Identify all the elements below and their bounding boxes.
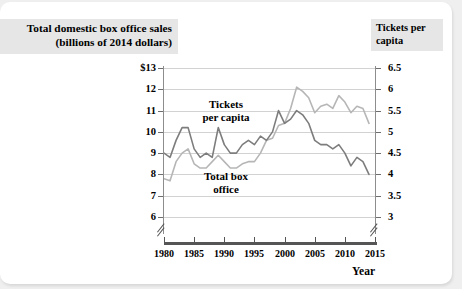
left-tick-label: $13 <box>116 63 156 74</box>
right-tick <box>376 111 381 112</box>
x-axis-label: Year <box>352 265 375 277</box>
right-tick-label: 6 <box>388 84 428 95</box>
right-tick <box>376 89 381 90</box>
left-tick <box>158 132 163 133</box>
plot-area: $13 12 11 10 9 8 7 6 6.5 6 5.5 5 4.5 4 3… <box>164 68 375 217</box>
x-tick <box>224 237 225 242</box>
x-tick <box>194 237 195 242</box>
x-axis-line <box>164 242 377 245</box>
chart-card: Total domestic box office sales (billion… <box>0 2 452 284</box>
left-tick-label: 11 <box>116 106 156 117</box>
x-tick <box>254 237 255 242</box>
left-tick-label: 12 <box>116 84 156 95</box>
x-tick <box>315 237 316 242</box>
left-tick-label: 6 <box>116 212 156 223</box>
right-tick-label: 3.5 <box>388 191 428 202</box>
left-axis-title: Total domestic box office sales (billion… <box>0 19 178 54</box>
right-tick <box>376 68 381 69</box>
left-axis-title-line1: Total domestic box office sales <box>27 22 172 34</box>
right-tick-label: 3 <box>388 212 428 223</box>
annotation-tickets-per-capita: Tickets per capita <box>186 98 266 124</box>
right-tick-label: 4.5 <box>388 148 428 159</box>
right-axis-line <box>375 66 376 234</box>
left-tick-label: 8 <box>116 169 156 180</box>
left-tick <box>158 111 163 112</box>
left-tick-label: 9 <box>116 148 156 159</box>
right-tick-label: 5.5 <box>388 106 428 117</box>
right-tick <box>376 153 381 154</box>
right-tick <box>376 132 381 133</box>
right-axis-title-line2: capita <box>376 35 403 46</box>
left-axis-title-line2: (billions of 2014 dollars) <box>56 36 172 48</box>
left-tick <box>158 196 163 197</box>
x-tick <box>285 237 286 242</box>
right-tick <box>376 174 381 175</box>
x-tick <box>345 237 346 242</box>
right-tick <box>376 196 381 197</box>
x-tick <box>375 237 376 242</box>
right-tick-label: 5 <box>388 127 428 138</box>
annotation-tickets-line1: Tickets <box>209 98 243 110</box>
left-tick <box>158 217 163 218</box>
left-tick <box>158 68 163 69</box>
right-axis-title: Tickets per capita <box>371 19 443 51</box>
left-tick <box>158 89 163 90</box>
left-axis-break <box>157 222 169 236</box>
x-tick <box>164 237 165 242</box>
annotation-boxoffice-line2: office <box>213 183 239 195</box>
right-axis-break <box>370 222 382 236</box>
left-tick-label: 7 <box>116 191 156 202</box>
annotation-total-box-office: Total box office <box>186 170 266 196</box>
annotation-tickets-line2: per capita <box>202 111 249 123</box>
right-tick-label: 6.5 <box>388 63 428 74</box>
left-tick-label: 10 <box>116 127 156 138</box>
gridline <box>164 217 375 218</box>
right-axis-title-line1: Tickets per <box>376 22 426 33</box>
annotation-boxoffice-line1: Total box <box>204 170 248 182</box>
right-tick <box>376 217 381 218</box>
left-tick <box>158 174 163 175</box>
right-tick-label: 4 <box>388 169 428 180</box>
left-tick <box>158 153 163 154</box>
x-tick-label: 2015 <box>355 248 395 259</box>
